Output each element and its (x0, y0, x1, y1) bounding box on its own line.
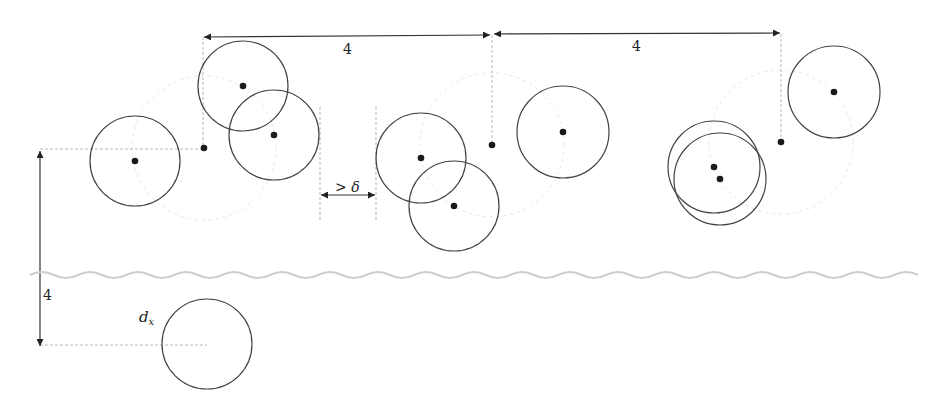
top-span-label-2: 4 (632, 38, 641, 54)
center-dot (831, 89, 838, 96)
center-dot (271, 132, 278, 139)
top-span-arrow-2 (494, 33, 780, 34)
reference-point-p1 (201, 145, 208, 152)
gap-label: > δ (335, 179, 360, 195)
center-dot (711, 164, 718, 171)
reference-point-p3 (778, 139, 785, 146)
disk-c2 (198, 41, 288, 131)
top-span-arrow-1 (204, 35, 490, 37)
disk-c5 (409, 161, 499, 251)
disk-c1 (90, 116, 180, 206)
center-dot (717, 176, 724, 183)
dx-label-main: d (139, 308, 149, 326)
center-dot (240, 83, 247, 90)
top-span-label-1: 4 (343, 41, 352, 57)
circle-outline (162, 299, 252, 389)
circle-packing-diagram: 4 4 > δ 4 dx (0, 0, 940, 414)
disk-c10 (162, 299, 252, 389)
wavy-separator (30, 272, 918, 278)
reference-point-p2 (489, 142, 496, 149)
dx-label: dx (139, 308, 155, 327)
disk-c4 (376, 113, 466, 203)
disk-c3 (229, 90, 319, 180)
disk-c9 (788, 46, 880, 138)
dimension-arrows (40, 33, 780, 346)
center-dot (132, 158, 139, 165)
dx-label-subscript: x (149, 316, 155, 327)
circles-group (90, 41, 880, 389)
dashed-guides (40, 34, 781, 345)
center-dot (418, 155, 425, 162)
disk-c6 (517, 86, 609, 178)
center-dot (451, 203, 458, 210)
vertical-span-label: 4 (43, 287, 52, 303)
center-dot (560, 129, 567, 136)
disk-c8 (674, 133, 766, 225)
disk-c7 (668, 121, 760, 213)
